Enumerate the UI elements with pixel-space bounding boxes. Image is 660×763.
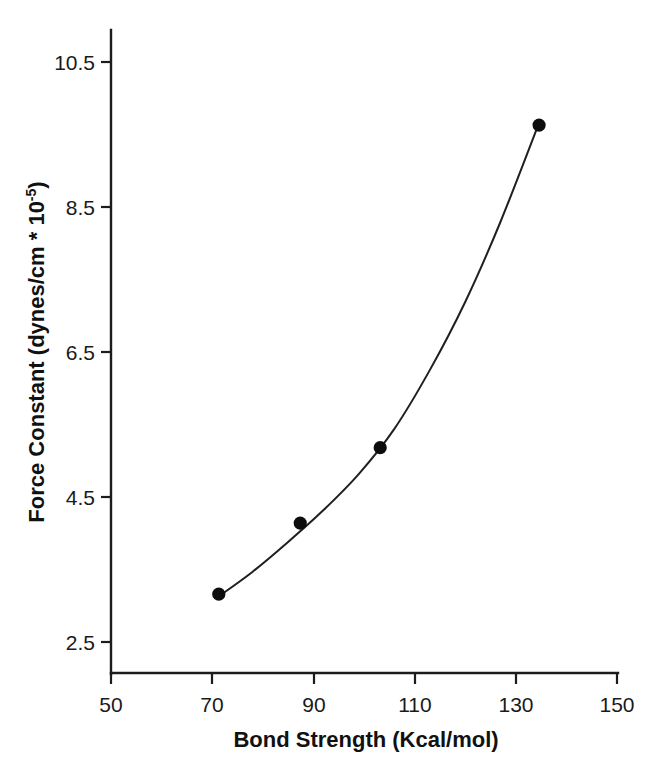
data-point-3 — [374, 441, 387, 454]
x-tick-label-50: 50 — [99, 693, 122, 716]
x-tick-label-130: 130 — [498, 693, 533, 716]
y-axis-title-exponent: -5 — [23, 188, 39, 201]
x-tick-label-70: 70 — [200, 693, 223, 716]
y-axis-title: Force Constant (dynes/cm * 10-5) — [23, 181, 49, 522]
y-axis-title-group: Force Constant (dynes/cm * 10-5) — [23, 181, 49, 522]
data-point-4 — [532, 118, 545, 131]
y-axis-title-main: Force Constant (dynes/cm * 10 — [24, 201, 49, 523]
x-tick-label-150: 150 — [599, 693, 634, 716]
plot-background — [0, 0, 660, 763]
data-point-2 — [294, 517, 307, 530]
y-tick-label-6.5: 6.5 — [66, 341, 95, 364]
scatter-plot-svg: 10.5 8.5 6.5 4.5 2.5 50 70 90 — [0, 0, 660, 763]
data-point-1 — [212, 588, 225, 601]
x-axis-title: Bond Strength (Kcal/mol) — [233, 727, 498, 752]
y-tick-label-8.5: 8.5 — [66, 196, 95, 219]
x-tick-label-90: 90 — [302, 693, 325, 716]
chart-figure: 10.5 8.5 6.5 4.5 2.5 50 70 90 — [0, 0, 660, 763]
y-tick-label-4.5: 4.5 — [66, 486, 95, 509]
y-axis-title-tail: ) — [24, 181, 49, 188]
x-tick-label-110: 110 — [398, 693, 431, 716]
y-tick-label-2.5: 2.5 — [66, 631, 95, 654]
y-tick-label-10.5: 10.5 — [54, 51, 95, 74]
